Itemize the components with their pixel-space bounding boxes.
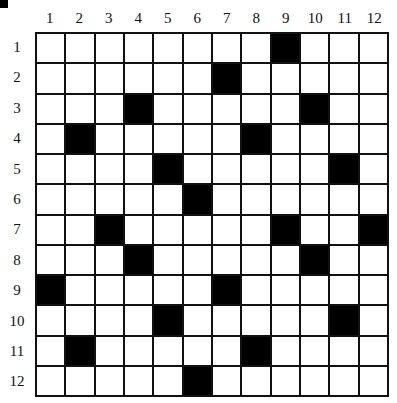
white-cell[interactable]	[184, 276, 211, 304]
white-cell[interactable]	[213, 95, 240, 123]
white-cell[interactable]	[184, 95, 211, 123]
white-cell[interactable]	[154, 216, 181, 244]
white-cell[interactable]	[242, 306, 269, 334]
white-cell[interactable]	[125, 306, 152, 334]
white-cell[interactable]	[360, 337, 387, 365]
white-cell[interactable]	[360, 276, 387, 304]
white-cell[interactable]	[125, 155, 152, 183]
white-cell[interactable]	[96, 367, 123, 395]
white-cell[interactable]	[213, 125, 240, 153]
white-cell[interactable]	[66, 246, 93, 274]
white-cell[interactable]	[96, 185, 123, 213]
white-cell[interactable]	[301, 367, 328, 395]
white-cell[interactable]	[242, 95, 269, 123]
white-cell[interactable]	[125, 367, 152, 395]
white-cell[interactable]	[96, 95, 123, 123]
white-cell[interactable]	[330, 34, 357, 62]
white-cell[interactable]	[272, 276, 299, 304]
white-cell[interactable]	[96, 276, 123, 304]
white-cell[interactable]	[360, 185, 387, 213]
white-cell[interactable]	[37, 125, 64, 153]
white-cell[interactable]	[125, 276, 152, 304]
white-cell[interactable]	[330, 216, 357, 244]
white-cell[interactable]	[184, 337, 211, 365]
white-cell[interactable]	[242, 216, 269, 244]
white-cell[interactable]	[330, 125, 357, 153]
white-cell[interactable]	[360, 125, 387, 153]
white-cell[interactable]	[213, 337, 240, 365]
white-cell[interactable]	[330, 337, 357, 365]
white-cell[interactable]	[301, 155, 328, 183]
white-cell[interactable]	[96, 64, 123, 92]
white-cell[interactable]	[96, 125, 123, 153]
white-cell[interactable]	[184, 34, 211, 62]
white-cell[interactable]	[125, 34, 152, 62]
white-cell[interactable]	[242, 246, 269, 274]
white-cell[interactable]	[66, 276, 93, 304]
white-cell[interactable]	[66, 155, 93, 183]
white-cell[interactable]	[184, 246, 211, 274]
white-cell[interactable]	[125, 64, 152, 92]
white-cell[interactable]	[301, 125, 328, 153]
white-cell[interactable]	[37, 306, 64, 334]
white-cell[interactable]	[66, 216, 93, 244]
white-cell[interactable]	[242, 34, 269, 62]
white-cell[interactable]	[184, 306, 211, 334]
white-cell[interactable]	[272, 95, 299, 123]
white-cell[interactable]	[37, 216, 64, 244]
white-cell[interactable]	[96, 246, 123, 274]
white-cell[interactable]	[125, 216, 152, 244]
white-cell[interactable]	[154, 246, 181, 274]
white-cell[interactable]	[330, 95, 357, 123]
white-cell[interactable]	[154, 64, 181, 92]
white-cell[interactable]	[330, 246, 357, 274]
white-cell[interactable]	[330, 276, 357, 304]
white-cell[interactable]	[301, 64, 328, 92]
white-cell[interactable]	[301, 276, 328, 304]
white-cell[interactable]	[184, 125, 211, 153]
white-cell[interactable]	[213, 367, 240, 395]
white-cell[interactable]	[154, 276, 181, 304]
white-cell[interactable]	[213, 34, 240, 62]
white-cell[interactable]	[301, 216, 328, 244]
white-cell[interactable]	[272, 337, 299, 365]
white-cell[interactable]	[37, 185, 64, 213]
white-cell[interactable]	[154, 337, 181, 365]
white-cell[interactable]	[242, 276, 269, 304]
white-cell[interactable]	[184, 64, 211, 92]
white-cell[interactable]	[330, 367, 357, 395]
white-cell[interactable]	[96, 34, 123, 62]
white-cell[interactable]	[301, 306, 328, 334]
white-cell[interactable]	[66, 367, 93, 395]
white-cell[interactable]	[301, 185, 328, 213]
white-cell[interactable]	[242, 367, 269, 395]
white-cell[interactable]	[272, 367, 299, 395]
white-cell[interactable]	[213, 306, 240, 334]
white-cell[interactable]	[360, 246, 387, 274]
white-cell[interactable]	[66, 64, 93, 92]
white-cell[interactable]	[213, 185, 240, 213]
white-cell[interactable]	[272, 155, 299, 183]
white-cell[interactable]	[272, 306, 299, 334]
white-cell[interactable]	[272, 246, 299, 274]
white-cell[interactable]	[301, 34, 328, 62]
white-cell[interactable]	[242, 185, 269, 213]
white-cell[interactable]	[184, 216, 211, 244]
white-cell[interactable]	[242, 155, 269, 183]
white-cell[interactable]	[96, 337, 123, 365]
white-cell[interactable]	[360, 306, 387, 334]
white-cell[interactable]	[66, 34, 93, 62]
white-cell[interactable]	[330, 185, 357, 213]
white-cell[interactable]	[360, 155, 387, 183]
white-cell[interactable]	[154, 34, 181, 62]
white-cell[interactable]	[66, 95, 93, 123]
white-cell[interactable]	[360, 367, 387, 395]
white-cell[interactable]	[37, 95, 64, 123]
white-cell[interactable]	[37, 246, 64, 274]
white-cell[interactable]	[125, 125, 152, 153]
white-cell[interactable]	[37, 155, 64, 183]
white-cell[interactable]	[301, 337, 328, 365]
white-cell[interactable]	[154, 95, 181, 123]
white-cell[interactable]	[37, 337, 64, 365]
white-cell[interactable]	[184, 155, 211, 183]
